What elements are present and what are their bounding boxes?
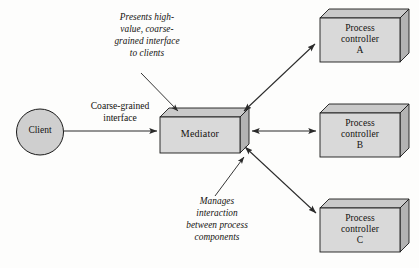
diagram-canvas: Client Mediator Process controller A Pro…	[0, 0, 419, 268]
edge-mediator-to-controller-a[interactable]	[244, 44, 315, 111]
edge-label-coarse-grained-interface: Coarse-grained interface	[70, 100, 170, 124]
controller-c-top-face	[320, 199, 409, 208]
annotation-presents-interface: Presents high- value, coarse- grained in…	[104, 12, 190, 60]
controller-a-top-face	[320, 9, 409, 18]
controller-a-side-face	[400, 9, 409, 62]
mediator-top-face	[160, 108, 249, 117]
mediator-label: Mediator	[160, 128, 240, 140]
controller-b-top-face	[320, 104, 409, 113]
controller-c-label: Process controller C	[320, 213, 400, 247]
annotation-manages-interaction: Manages interaction between process comp…	[172, 196, 262, 244]
leader-manages-interaction-note	[215, 157, 244, 196]
controller-b-side-face	[400, 104, 409, 157]
controller-c-side-face	[400, 199, 409, 252]
controller-a-label: Process controller A	[320, 23, 400, 57]
controller-b-label: Process controller B	[320, 118, 400, 152]
client-label: Client	[16, 125, 64, 136]
